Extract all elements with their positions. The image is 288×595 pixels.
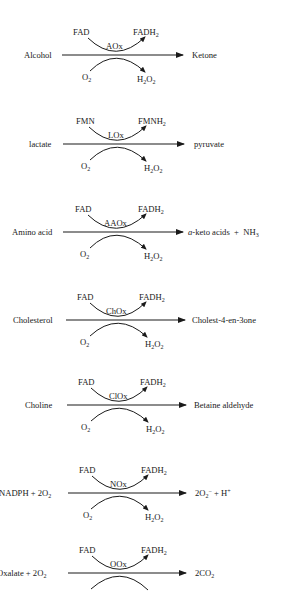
cofactor-out-text: FADH (138, 204, 161, 214)
cofactor-out: FADH2 (133, 27, 159, 37)
reaction-alcohol-oxidase: FAD FADH2 AOx Alcohol Ketone O2 H2O2 (0, 25, 288, 85)
product: a-keto acids + NH3 (188, 227, 259, 237)
subscript: 2 (163, 382, 166, 388)
product-text: 2O (195, 488, 206, 498)
cofactor-out: FADH2 (139, 292, 165, 302)
enzyme-label: OOx (110, 559, 127, 569)
cofactor-out: FADH2 (138, 204, 164, 214)
substrate: Choline (25, 400, 52, 410)
subscript: 2 (163, 121, 166, 127)
cofactor-out-text: FMNH (138, 116, 163, 126)
cofactor-out-text: FADH (141, 465, 164, 475)
subscript: 3 (256, 232, 259, 238)
cofactor-in: FMN (76, 116, 95, 126)
substrate: NADPH + 2O2 (0, 488, 51, 498)
oxygen-in: O2 (82, 72, 91, 82)
hydrogen-peroxide-out: H2O2 (145, 339, 163, 349)
hydrogen-peroxide-out: H2O2 (146, 424, 164, 434)
subscript: 2 (164, 550, 167, 556)
cofactor-out: FMNH2 (138, 116, 166, 126)
product-text: 2CO (195, 568, 211, 578)
cofactor-in: FAD (78, 377, 95, 387)
cofactor-out-text: FADH (140, 377, 163, 387)
enzyme-label: AOx (106, 41, 123, 51)
subscript: 2 (159, 256, 162, 262)
enzyme-label: ClOx (109, 391, 128, 401)
cofactor-in: FAD (75, 204, 92, 214)
subscript: 2 (164, 470, 167, 476)
reaction-oxalate-oxidase: FAD FADH2 OOx Oxalate + 2O2 2CO2 (0, 543, 288, 595)
oxygen-arc (91, 408, 148, 422)
subscript: 2 (161, 429, 164, 435)
oxygen-in: O2 (81, 422, 90, 432)
oxygen-arc (91, 576, 148, 590)
product: Ketone (192, 50, 217, 60)
subscript: 2 (88, 77, 91, 83)
cofactor-out-text: FADH (133, 27, 156, 37)
substrate-text: NADPH + 2O (0, 488, 48, 498)
hydrogen-peroxide-out: H2O2 (145, 512, 163, 522)
oxygen-arc (90, 323, 147, 337)
oxygen-in: O2 (80, 337, 89, 347)
oxygen-arc (91, 496, 148, 510)
oxygen-arc (90, 58, 145, 72)
cofactor-in: FAD (73, 27, 90, 37)
subscript: 2 (156, 32, 159, 38)
cofactor-out: FADH2 (141, 545, 167, 555)
oxygen-in: O2 (81, 161, 90, 171)
oxygen-arc (90, 147, 146, 161)
oxygen-arc (90, 235, 146, 249)
substrate-text: Oxalate + 2O (0, 568, 43, 578)
product-text: -keto acids + NH (192, 227, 255, 237)
hydrogen-peroxide-out: H2O2 (137, 74, 155, 84)
hydrogen-peroxide-out: H2O2 (144, 163, 162, 173)
substrate: Amino acid (12, 227, 52, 237)
subscript: 2 (162, 297, 165, 303)
cofactor-in: FAD (77, 292, 94, 302)
product: 2O2− + H+ (195, 488, 231, 498)
subscript: 2 (159, 168, 162, 174)
subscript: 2 (152, 79, 155, 85)
reaction-lactate-oxidase: FMN FMNH2 LOx lactate pyruvate O2 H2O2 (0, 114, 288, 174)
product-tail: + H (212, 488, 227, 498)
reaction-choline-oxidase: FAD FADH2 ClOx Choline Betaine aldehyde … (0, 375, 288, 435)
product: Betaine aldehyde (194, 400, 253, 410)
substrate: lactate (29, 139, 51, 149)
product: 2CO2 (195, 568, 214, 578)
substrate: Oxalate + 2O2 (0, 568, 46, 578)
subscript: 2 (48, 493, 51, 499)
enzyme-label: NOx (110, 479, 127, 489)
subscript: 2 (87, 166, 90, 172)
enzyme-label: ChOx (106, 306, 127, 316)
hydrogen-peroxide-out: H2O2 (144, 251, 162, 261)
subscript: 2 (86, 342, 89, 348)
enzyme-label: AAOx (104, 218, 127, 228)
subscript: 2 (161, 209, 164, 215)
reaction-amino-acid-oxidase: FAD FADH2 AAOx Amino acid a-keto acids +… (0, 202, 288, 262)
cofactor-in: FAD (79, 465, 96, 475)
superscript: + (227, 488, 230, 494)
cofactor-out-text: FADH (139, 292, 162, 302)
oxygen-in: O2 (80, 249, 89, 259)
subscript: 2 (87, 427, 90, 433)
product: pyruvate (194, 139, 224, 149)
product: Cholest-4-en-3one (192, 315, 256, 325)
subscript: 2 (160, 517, 163, 523)
subscript: 2 (43, 573, 46, 579)
oxygen-in: O2 (83, 510, 92, 520)
cofactor-out: FADH2 (140, 377, 166, 387)
cofactor-out-text: FADH (141, 545, 164, 555)
cofactor-out: FADH2 (141, 465, 167, 475)
subscript: 2 (160, 344, 163, 350)
subscript: 2 (86, 254, 89, 260)
subscript: 2 (211, 573, 214, 579)
enzyme-label: LOx (108, 130, 124, 140)
reaction-nadph-oxidase: FAD FADH2 NOx NADPH + 2O2 2O2− + H+ O2 H… (0, 463, 288, 523)
cofactor-in: FAD (79, 545, 96, 555)
reaction-cholesterol-oxidase: FAD FADH2 ChOx Cholesterol Cholest-4-en-… (0, 290, 288, 350)
subscript: 2 (89, 515, 92, 521)
substrate: Alcohol (24, 50, 52, 60)
substrate: Cholesterol (13, 315, 53, 325)
